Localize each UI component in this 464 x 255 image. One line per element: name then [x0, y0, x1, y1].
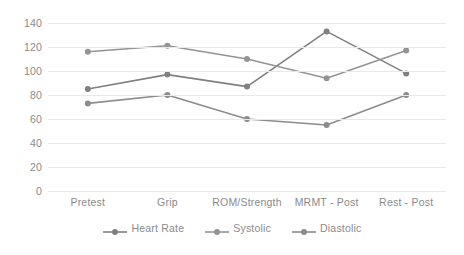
gridline — [48, 191, 446, 192]
x-axis-tick-label: Rest - Post — [379, 196, 433, 208]
legend-marker-icon — [102, 223, 128, 233]
legend-item[interactable]: Systolic — [204, 222, 271, 234]
x-axis-tick-label: Grip — [157, 196, 178, 208]
data-point-marker — [85, 86, 91, 92]
y-axis: 020406080100120140 — [0, 23, 42, 191]
data-point-marker — [324, 28, 330, 34]
chart-legend: Heart RateSystolicDiastolic — [0, 222, 464, 234]
series-layer — [48, 23, 446, 191]
gridline — [48, 119, 446, 120]
data-point-marker — [324, 75, 330, 81]
y-axis-tick-label: 80 — [30, 90, 42, 101]
gridline — [48, 71, 446, 72]
y-axis-tick-label: 100 — [24, 66, 42, 77]
gridline — [48, 47, 446, 48]
data-point-marker — [85, 100, 91, 106]
data-point-marker — [85, 49, 91, 55]
y-axis-tick-label: 40 — [30, 138, 42, 149]
data-point-marker — [244, 56, 250, 62]
data-point-marker — [324, 122, 330, 128]
legend-marker-icon — [291, 223, 317, 233]
legend-item[interactable]: Diastolic — [291, 222, 361, 234]
legend-label: Diastolic — [320, 222, 361, 234]
gridline — [48, 167, 446, 168]
data-point-marker — [164, 72, 170, 78]
gridline — [48, 95, 446, 96]
plot-area — [48, 23, 446, 191]
data-point-marker — [403, 48, 409, 54]
line-chart: 020406080100120140 PretestGripROM/Streng… — [0, 0, 464, 255]
x-axis: PretestGripROM/StrengthMRMT - PostRest -… — [48, 196, 446, 216]
x-axis-tick-label: Pretest — [70, 196, 105, 208]
x-axis-tick-label: MRMT - Post — [295, 196, 359, 208]
legend-label: Heart Rate — [131, 222, 184, 234]
legend-label: Systolic — [233, 222, 271, 234]
gridline — [48, 23, 446, 24]
y-axis-tick-label: 120 — [24, 42, 42, 53]
data-point-marker — [244, 84, 250, 90]
gridline — [48, 143, 446, 144]
y-axis-tick-label: 140 — [24, 18, 42, 29]
y-axis-tick-label: 60 — [30, 114, 42, 125]
y-axis-tick-label: 0 — [36, 186, 42, 197]
y-axis-tick-label: 20 — [30, 162, 42, 173]
x-axis-tick-label: ROM/Strength — [212, 196, 282, 208]
legend-item[interactable]: Heart Rate — [102, 222, 184, 234]
legend-marker-icon — [204, 223, 230, 233]
